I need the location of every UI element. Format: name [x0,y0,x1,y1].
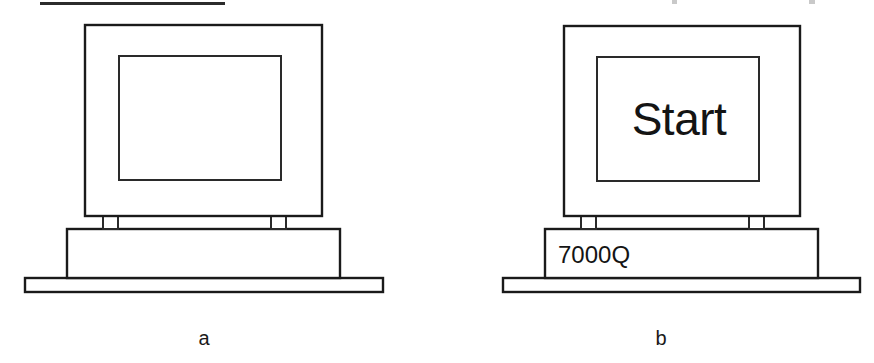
desk-platform-icon [25,278,383,292]
base-model-label: 7000Q [558,241,630,268]
monitor-screen-area[interactable] [119,56,281,180]
computer-base-icon [67,229,340,278]
scan-line-artifact [40,2,225,5]
speck-artifact-right [809,0,815,4]
scan-artifact-group [40,0,815,5]
speck-artifact-left [672,0,677,4]
panel-caption-a: a [198,327,210,349]
panel-b-group[interactable]: Start 7000Q b [503,26,860,349]
desk-platform-icon [503,278,860,292]
computer-diagram-svg: a Start 7000Q b [0,0,874,363]
figure-root: a Start 7000Q b [0,0,874,363]
screen-text: Start [632,93,727,145]
panel-a-group[interactable]: a [25,25,383,349]
panel-caption-b: b [655,327,666,349]
